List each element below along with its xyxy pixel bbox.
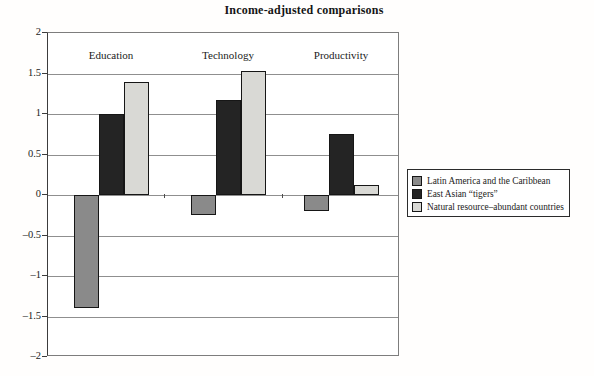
category-label-productivity: Productivity: [281, 49, 401, 61]
legend-swatch-natural-resource: [412, 202, 422, 212]
category-tick-mark: [164, 194, 165, 198]
category-label-education: Education: [51, 49, 171, 61]
legend-item: East Asian “tigers”: [412, 187, 565, 200]
legend-item: Natural resource–abundant countries: [412, 200, 565, 213]
gridline: [48, 195, 398, 196]
bar-education-east-asian: [99, 114, 124, 195]
y-tick-label: 1: [0, 107, 41, 119]
category-tick-mark: [282, 194, 283, 198]
legend-label: Latin America and the Caribbean: [427, 176, 550, 186]
y-tick-mark: [42, 32, 47, 33]
bar-technology-latin-america: [191, 195, 216, 215]
bar-productivity-natural-resource: [354, 185, 379, 195]
legend-item: Latin America and the Caribbean: [412, 174, 565, 187]
y-tick-label: 1.5: [0, 67, 41, 79]
legend-swatch-latin-america: [412, 176, 422, 186]
y-tick-label: –1.5: [0, 310, 41, 322]
y-tick-mark: [42, 154, 47, 155]
legend: Latin America and the Caribbean East Asi…: [407, 169, 570, 217]
chart-container: Income-adjusted comparisons Latin Americ…: [0, 0, 594, 376]
bar-productivity-east-asian: [329, 134, 354, 195]
y-tick-label: –0.5: [0, 229, 41, 241]
plot-area: [47, 32, 399, 356]
y-tick-label: –1: [0, 269, 41, 281]
gridline: [48, 276, 398, 277]
chart-title: Income-adjusted comparisons: [0, 3, 594, 18]
bar-technology-east-asian: [216, 100, 241, 195]
gridline: [48, 74, 398, 75]
y-tick-label: 2: [0, 26, 41, 38]
bar-productivity-latin-america: [304, 195, 329, 211]
legend-label: Natural resource–abundant countries: [427, 202, 564, 212]
y-tick-mark: [42, 275, 47, 276]
y-tick-mark: [42, 316, 47, 317]
bar-technology-natural-resource: [241, 71, 266, 195]
bar-education-natural-resource: [124, 82, 149, 195]
legend-label: East Asian “tigers”: [427, 189, 498, 199]
y-tick-mark: [42, 194, 47, 195]
y-tick-label: 0.5: [0, 148, 41, 160]
y-tick-mark: [42, 356, 47, 357]
gridline: [48, 317, 398, 318]
y-tick-label: 0: [0, 188, 41, 200]
gridline: [48, 236, 398, 237]
legend-swatch-east-asian: [412, 189, 422, 199]
y-tick-mark: [42, 113, 47, 114]
y-tick-mark: [42, 73, 47, 74]
y-tick-mark: [42, 235, 47, 236]
category-label-technology: Technology: [168, 49, 288, 61]
bar-education-latin-america: [74, 195, 99, 308]
y-tick-label: –2: [0, 350, 41, 362]
